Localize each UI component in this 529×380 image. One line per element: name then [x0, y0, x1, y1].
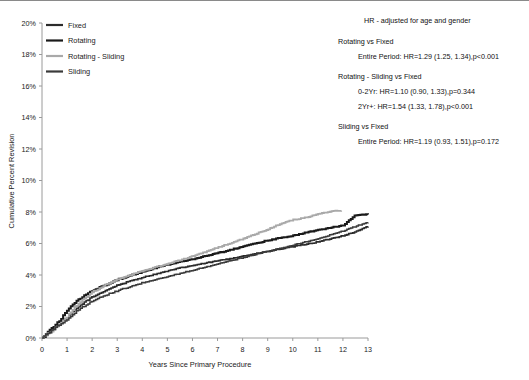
legend-label-rotating: Rotating — [68, 36, 96, 45]
y-tick-label: 14% — [22, 113, 37, 122]
x-tick-label: 13 — [364, 345, 372, 354]
legend-label-fixed: Fixed — [68, 21, 86, 30]
legend: FixedRotatingRotating - SlidingSliding — [46, 21, 124, 77]
series-line-rotating — [42, 214, 368, 338]
x-tick-label: 5 — [165, 345, 169, 354]
series-line-sliding — [42, 223, 368, 338]
survival-curve-chart: 0%2%4%6%8%10%12%14%16%18%20%012345678910… — [0, 1, 529, 380]
x-tick-label: 4 — [140, 345, 144, 354]
annotation-group-title: Rotating - Sliding vs Fixed — [338, 72, 422, 81]
chart-figure: 0%2%4%6%8%10%12%14%16%18%20%012345678910… — [0, 0, 529, 380]
y-tick-label: 12% — [22, 145, 37, 154]
annotation-group-line: Entire Period: HR=1.29 (1.25, 1.34),p<0.… — [358, 52, 499, 61]
y-tick-label: 4% — [26, 271, 37, 280]
x-axis-title: Years Since Primary Procedure — [149, 360, 252, 369]
annotation-group-line: Entire Period: HR=1.19 (0.93, 1.51),p=0.… — [358, 137, 499, 146]
y-tick-label: 6% — [26, 239, 37, 248]
x-tick-label: 8 — [241, 345, 245, 354]
annotation-panel: HR - adjusted for age and genderRotating… — [338, 16, 499, 146]
legend-label-rotating-sliding: Rotating - Sliding — [68, 52, 124, 61]
annotation-group-title: Rotating vs Fixed — [338, 37, 394, 46]
x-tick-label: 9 — [266, 345, 270, 354]
series-line-fixed — [42, 226, 368, 337]
series-lines — [42, 211, 368, 338]
x-tick-label: 2 — [90, 345, 94, 354]
x-tick-label: 12 — [339, 345, 347, 354]
y-tick-label: 8% — [26, 208, 37, 217]
x-tick-label: 6 — [190, 345, 194, 354]
y-tick-label: 16% — [22, 82, 37, 91]
y-axis-title: Cumulative Percent Revision — [7, 134, 16, 229]
legend-label-sliding: Sliding — [68, 67, 90, 76]
x-tick-label: 1 — [65, 345, 69, 354]
y-tick-label: 2% — [26, 302, 37, 311]
annotation-group-title: Sliding vs Fixed — [338, 122, 388, 131]
axis-titles: Cumulative Percent Revision Years Since … — [7, 134, 251, 369]
x-tick-label: 11 — [314, 345, 321, 354]
y-tick-label: 10% — [22, 176, 37, 185]
x-tick-label: 3 — [115, 345, 119, 354]
series-line-rotating-sliding — [42, 211, 341, 338]
y-tick-label: 20% — [22, 19, 37, 28]
x-tick-label: 7 — [216, 345, 220, 354]
y-tick-label: 18% — [22, 50, 37, 59]
y-tick-label: 0% — [26, 334, 37, 343]
annotation-group-line: 0-2Yr: HR=1.10 (0.90, 1.33),p=0.344 — [358, 87, 475, 96]
annotation-group-line: 2Yr+: HR=1.54 (1.33, 1.78),p<0.001 — [358, 102, 473, 111]
x-tick-label: 10 — [289, 345, 297, 354]
x-tick-label: 0 — [40, 345, 44, 354]
annotation-heading: HR - adjusted for age and gender — [364, 16, 471, 25]
